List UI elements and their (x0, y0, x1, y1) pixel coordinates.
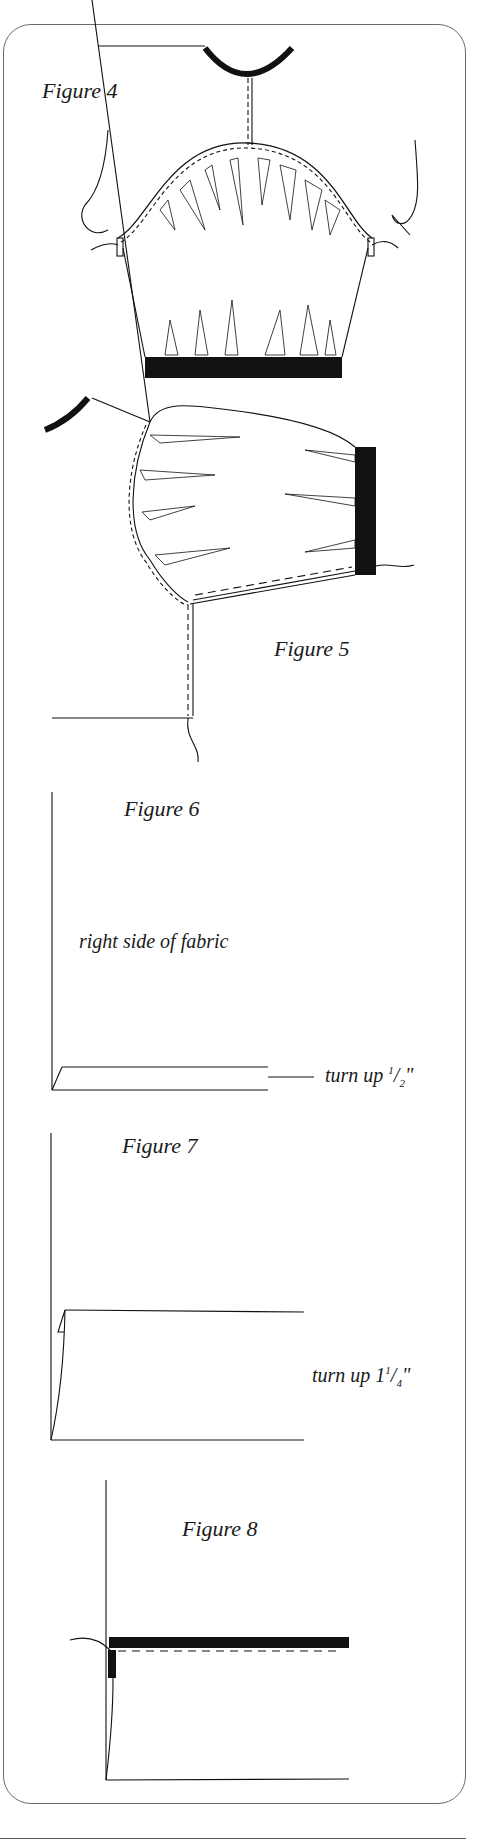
figure-8-caption: Figure 8 (182, 1516, 258, 1542)
fabric-side-label: right side of fabric (79, 930, 228, 953)
turn-up-half-inch-label: turn up 1/2" (325, 1064, 413, 1089)
sewing-diagram (0, 0, 493, 1845)
figure-5-drawing (45, 0, 414, 762)
figure-4-caption: Figure 4 (42, 78, 118, 104)
figure-7-drawing (51, 1133, 304, 1440)
figure-4-drawing (82, 46, 418, 378)
inch-mark: " (402, 1364, 410, 1386)
fraction-numerator: 1 (388, 1064, 394, 1076)
figure-6-caption: Figure 6 (124, 796, 200, 822)
turn-up-text: turn up 1 (312, 1364, 385, 1386)
turn-up-text: turn up (325, 1064, 388, 1086)
figure-5-caption: Figure 5 (274, 636, 350, 662)
turn-up-one-quarter-label: turn up 11/4" (312, 1364, 410, 1389)
fraction-numerator: 1 (385, 1364, 391, 1376)
figure-7-caption: Figure 7 (122, 1133, 198, 1159)
inch-mark: " (405, 1064, 413, 1086)
